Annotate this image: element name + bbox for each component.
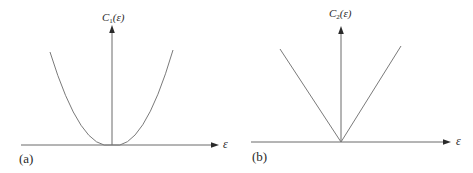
panel-b-right-branch (341, 46, 401, 142)
figure: C1(ε) ε (a) C2(ε) ε (b) (0, 0, 473, 173)
panel-b-graphics (0, 0, 473, 173)
panel-b-y-axis-label: C2(ε) (329, 8, 352, 21)
panel-b-tag: (b) (252, 150, 267, 163)
panel-b-left-branch (280, 49, 341, 142)
panel-b-x-axis-label: ε (456, 135, 461, 147)
panel-b-x-axis-arrowhead-icon (443, 139, 451, 145)
panel-b-y-axis-arrowhead-icon (338, 26, 344, 34)
